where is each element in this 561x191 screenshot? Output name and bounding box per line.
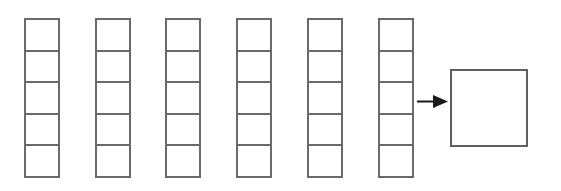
grid-cell [236,144,272,178]
grid-cell [307,113,343,147]
grid-cell [378,144,414,178]
grid-cell [236,18,272,52]
grid-column-2 [95,18,131,186]
result-square [450,69,528,147]
grid-column-5 [307,18,343,186]
grid-cell [24,113,60,147]
grid-column-4 [236,18,272,186]
grid-cell [95,18,131,52]
grid-cell [378,81,414,115]
rightwards-arrow-icon [411,89,454,114]
grid-cell [24,18,60,52]
grid-cell [165,18,201,52]
grid-cell [378,113,414,147]
grid-cell [95,50,131,84]
grid-cell [165,144,201,178]
grid-cell [165,113,201,147]
diagram-canvas [0,0,561,191]
grid-column-6 [378,18,414,186]
grid-cell [307,144,343,178]
grid-cell [378,18,414,52]
grid-cell [24,144,60,178]
grid-cell [236,113,272,147]
grid-cell [24,50,60,84]
grid-cell [95,81,131,115]
grid-cell [95,144,131,178]
grid-column-1 [24,18,60,186]
grid-column-3 [165,18,201,186]
grid-cell [236,81,272,115]
grid-cell [165,81,201,115]
grid-cell [307,18,343,52]
grid-cell [307,50,343,84]
grid-cell [95,113,131,147]
grid-cell [236,50,272,84]
grid-cell [378,50,414,84]
grid-cell [165,50,201,84]
grid-cell [24,81,60,115]
grid-cell [307,81,343,115]
